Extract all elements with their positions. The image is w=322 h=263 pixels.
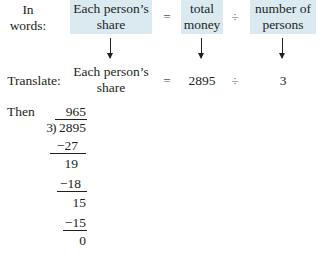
down-arrow-icon [282, 38, 283, 58]
quotient: 965 [50, 104, 86, 120]
then-label: Then [7, 104, 35, 120]
down-arrow-icon [201, 38, 202, 58]
number-of-persons-box: number of persons [250, 0, 316, 34]
in-words-label: In words: [6, 2, 50, 34]
total-money-line2: money [184, 17, 221, 33]
translate-term1-line2: share [97, 80, 125, 96]
in-words-label-line2: words: [6, 18, 50, 34]
total-money-box: total money [181, 0, 223, 34]
subtract-step-2: −18 [45, 176, 81, 192]
equals-sign: = [158, 0, 176, 34]
translate-divide-sign: ÷ [226, 64, 244, 98]
divide-sign: ÷ [226, 0, 244, 34]
each-persons-share-line1: Each person’s [73, 1, 148, 17]
translate-equals-sign: = [158, 64, 176, 98]
number-of-persons-line2: persons [262, 17, 303, 33]
each-persons-share-box: Each person’s share [70, 0, 152, 34]
remainder-step-1: 19 [40, 156, 78, 172]
step-rule-2 [57, 191, 87, 192]
remainder-step-3: 0 [50, 233, 86, 249]
remainder-step-2: 15 [50, 195, 86, 211]
translate-divisor: 3 [250, 64, 316, 98]
translate-label: Translate: [4, 64, 64, 98]
dividend: 2895 [50, 120, 86, 136]
in-words-label-line1: In [6, 2, 50, 18]
total-money-line1: total [190, 1, 214, 17]
translate-each-persons-share: Each person’s share [70, 63, 152, 97]
each-persons-share-line2: share [97, 17, 125, 33]
subtract-step-1: −27 [40, 138, 78, 154]
step-rule-3 [63, 230, 87, 231]
subtract-step-3: −15 [50, 215, 86, 231]
step-rule-1 [50, 153, 86, 154]
translate-dividend: 2895 [181, 64, 223, 98]
down-arrow-icon [110, 38, 111, 58]
number-of-persons-line1: number of [255, 1, 311, 17]
translate-term1-line1: Each person’s [73, 64, 148, 80]
